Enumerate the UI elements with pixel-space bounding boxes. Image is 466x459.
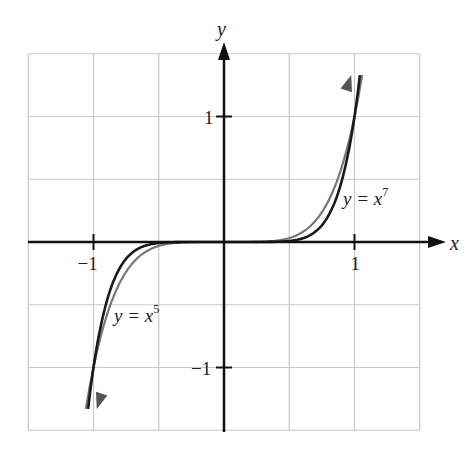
x-axis-arrow-icon — [428, 236, 446, 248]
x-axis-label: x — [449, 232, 459, 254]
y-axis-label: y — [215, 18, 226, 41]
x-tick-label: −1 — [78, 253, 98, 274]
y-tick-label: 1 — [204, 107, 214, 128]
y-tick-label: −1 — [191, 358, 211, 379]
y-axis-arrow-icon — [218, 42, 230, 60]
label-x5: y = x5 — [112, 302, 159, 326]
x-tick-label: 1 — [351, 253, 361, 274]
label-x7: y = x7 — [341, 185, 388, 209]
chart: x y −111−1 y = x7 y = x5 — [0, 0, 466, 459]
